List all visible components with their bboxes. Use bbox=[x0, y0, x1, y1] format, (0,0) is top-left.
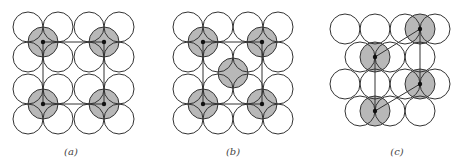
atom-circle bbox=[13, 74, 43, 104]
atom-circle bbox=[173, 104, 203, 134]
atom-circle bbox=[405, 96, 435, 126]
lattice-point-dot bbox=[373, 55, 377, 59]
lattice-point-dot bbox=[201, 40, 205, 44]
shaded-atom-circle bbox=[218, 58, 248, 88]
atom-circle bbox=[74, 74, 104, 104]
panel-b-label: (b) bbox=[226, 146, 240, 157]
lattice-point-dot bbox=[418, 82, 422, 86]
lattice-point-dot bbox=[41, 102, 45, 106]
atom-circle bbox=[104, 12, 134, 42]
lattice-point-dot bbox=[201, 102, 205, 106]
atom-circle bbox=[330, 14, 360, 44]
atom-circle bbox=[173, 74, 203, 104]
atom-circle bbox=[43, 74, 73, 104]
atom-circle bbox=[104, 104, 134, 134]
lattice-point-dot bbox=[102, 40, 106, 44]
atom-circle bbox=[203, 74, 233, 104]
packing-diagram bbox=[0, 0, 461, 164]
atom-circle bbox=[13, 42, 43, 72]
atom-circle bbox=[43, 42, 73, 72]
atom-circle bbox=[360, 14, 390, 44]
lattice-line bbox=[375, 29, 420, 57]
atom-circle bbox=[104, 74, 134, 104]
atom-circle bbox=[263, 74, 293, 104]
lattice-point-dot bbox=[102, 102, 106, 106]
atom-circle bbox=[74, 42, 104, 72]
panel-b bbox=[173, 12, 293, 134]
atom-circle bbox=[43, 104, 73, 134]
atom-circle bbox=[203, 42, 233, 72]
atom-circle bbox=[173, 42, 203, 72]
atom-circle bbox=[263, 12, 293, 42]
lattice-point-dot bbox=[373, 109, 377, 113]
lattice-point-dot bbox=[41, 40, 45, 44]
atom-circle bbox=[74, 104, 104, 134]
atom-circle bbox=[13, 12, 43, 42]
atom-circle bbox=[263, 42, 293, 72]
panel-a-label: (a) bbox=[64, 146, 78, 157]
panel-c-label: (c) bbox=[390, 146, 403, 157]
atom-circle bbox=[43, 12, 73, 42]
atom-circle bbox=[74, 12, 104, 42]
lattice-point-dot bbox=[418, 27, 422, 31]
panel-a bbox=[13, 12, 134, 134]
atom-circle bbox=[13, 104, 43, 134]
atom-circle bbox=[263, 104, 293, 134]
atom-circle bbox=[203, 104, 233, 134]
atom-circle bbox=[173, 12, 203, 42]
atom-circle bbox=[104, 42, 134, 72]
lattice-point-dot bbox=[260, 102, 264, 106]
lattice-point-dot bbox=[260, 40, 264, 44]
atom-circle bbox=[203, 12, 233, 42]
atom-circle bbox=[330, 69, 360, 99]
panel-c bbox=[330, 14, 450, 126]
